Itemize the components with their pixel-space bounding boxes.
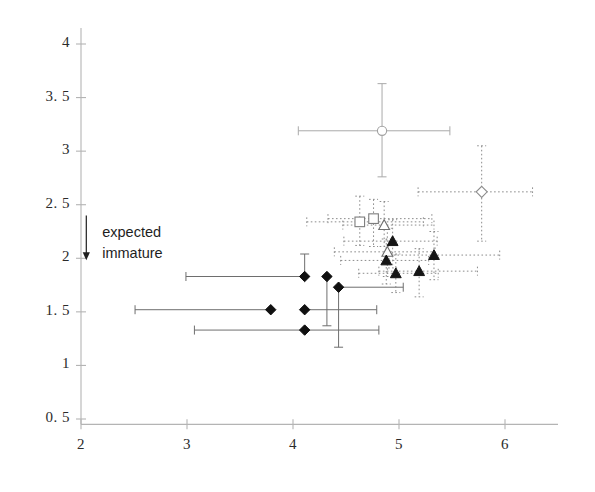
annotation-line-immature: immature	[102, 245, 162, 261]
data-point-group	[305, 305, 377, 314]
x-tick-label: 6	[501, 436, 509, 453]
marker-diamond-filled	[266, 305, 276, 315]
x-tick-label: 2	[77, 436, 85, 453]
marker-diamond-filled	[299, 271, 309, 281]
down-arrow-icon	[83, 252, 90, 260]
y-tick-label: 4	[62, 34, 70, 51]
data-point-group	[194, 326, 378, 335]
scatter-plot-figure: 0. 511. 522. 533. 5423456 expectedimmatu…	[0, 0, 595, 492]
marker-square-open	[369, 214, 379, 224]
data-point-group	[322, 277, 331, 326]
data-point-group	[418, 146, 532, 241]
data-point-group	[186, 254, 309, 281]
x-tick-label: 5	[395, 436, 403, 453]
data-point-group	[389, 232, 499, 280]
data-point-group	[135, 305, 271, 314]
marker-diamond-filled	[322, 271, 332, 281]
y-tick-label: 2	[62, 248, 70, 265]
y-tick-label: 1. 5	[46, 302, 71, 319]
y-tick-label: 2. 5	[46, 195, 71, 212]
marker-circle-open	[377, 126, 386, 135]
marker-diamond-filled	[333, 282, 343, 292]
annotation-line-expected: expected	[102, 224, 161, 240]
y-tick-label: 1	[62, 355, 70, 372]
y-tick-label: 3	[62, 141, 70, 158]
x-tick-label: 3	[183, 436, 191, 453]
marker-diamond-filled	[299, 325, 309, 335]
marker-diamond-open	[476, 186, 487, 197]
data-point-group	[298, 84, 450, 177]
data-point-group	[328, 199, 432, 246]
y-tick-label: 3. 5	[46, 88, 71, 105]
x-tick-label: 4	[289, 436, 297, 453]
y-tick-label: 0. 5	[46, 409, 71, 426]
marker-square-open	[355, 217, 365, 227]
marker-diamond-filled	[299, 305, 309, 315]
plot-canvas	[0, 0, 595, 492]
